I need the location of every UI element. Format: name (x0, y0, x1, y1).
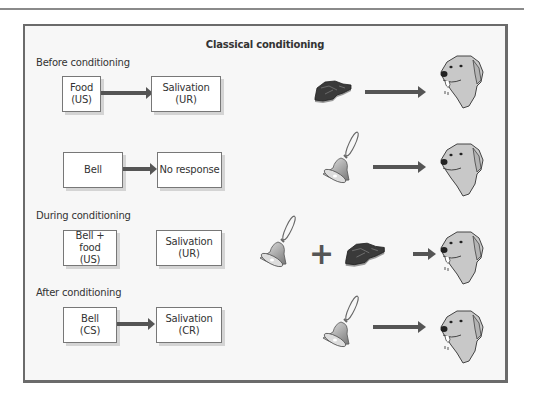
illustration-arrow (373, 165, 419, 169)
response-type: (UR) (175, 94, 196, 106)
figure-frame: Classical conditioning Before conditioni… (23, 24, 508, 383)
bell-icon (319, 294, 363, 350)
dog-salivating-icon (439, 309, 485, 365)
stimulus-box-bell-food: Bell + food (US) (63, 230, 117, 266)
dog-salivating-icon (439, 230, 485, 286)
illustration-arrow (413, 252, 429, 256)
response-name: No response (160, 164, 220, 176)
meat-icon (313, 78, 353, 106)
response-box-salivation-ur-during: Salivation (UR) (156, 230, 222, 266)
response-box-no-response: No response (157, 152, 222, 188)
arrow-food-to-salivation (101, 91, 147, 95)
stage-label-during: During conditioning (36, 210, 131, 221)
bell-icon (256, 214, 300, 270)
stimulus-type: (US) (80, 254, 101, 266)
arrow-bell-to-salivation-cr (117, 322, 149, 326)
illustration-arrow (373, 325, 419, 329)
stimulus-name: Bell + food (64, 230, 116, 254)
stimulus-type: (CS) (80, 325, 100, 337)
response-type: (UR) (178, 248, 199, 260)
stimulus-type: (US) (71, 94, 92, 106)
top-rule (0, 8, 524, 10)
figure-title: Classical conditioning (25, 39, 505, 50)
stimulus-box-bell: Bell (63, 152, 123, 188)
meat-icon (341, 240, 389, 270)
illustration-arrow (365, 90, 419, 94)
stimulus-name: Food (70, 82, 93, 94)
response-name: Salivation (165, 236, 212, 248)
dog-salivating-icon (439, 54, 485, 110)
response-name: Salivation (165, 313, 212, 325)
dog-icon (439, 142, 485, 198)
stage-label-before: Before conditioning (36, 57, 130, 68)
stage-label-after: After conditioning (36, 287, 121, 298)
stimulus-box-bell-cs: Bell (CS) (63, 307, 117, 343)
response-box-salivation-ur: Salivation (UR) (151, 76, 221, 112)
plus-sign: + (309, 239, 334, 269)
stimulus-name: Bell (84, 164, 102, 176)
arrow-bell-to-no-response (123, 167, 151, 171)
stimulus-box-food: Food (US) (62, 76, 101, 112)
response-name: Salivation (162, 82, 209, 94)
response-type: (CR) (179, 325, 200, 337)
stimulus-name: Bell (81, 313, 99, 325)
response-box-salivation-cr: Salivation (CR) (156, 307, 222, 343)
bell-icon (319, 130, 363, 186)
